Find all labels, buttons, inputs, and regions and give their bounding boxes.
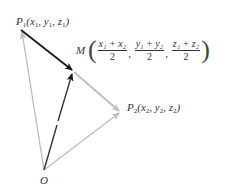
vector-o-p2 [44, 113, 119, 170]
point-m-label: M (x₁ + x₂2, y₁ + y₂2, z₁ + z₂2) [76, 37, 210, 63]
midpoint-z-fraction: z₁ + z₂2 [172, 39, 200, 62]
midpoint-y-fraction: y₁ + y₂2 [135, 39, 165, 62]
point-p1-label: P1(x1, y1, z1) [16, 16, 69, 29]
vector-o-p1 [22, 32, 44, 170]
origin-label: O [40, 175, 48, 186]
vector-m-p2 [74, 72, 119, 111]
midpoint-x-fraction: x₁ + x₂2 [98, 39, 128, 62]
vector-o-m-lower [44, 125, 57, 170]
vector-p1-m [21, 30, 72, 70]
point-p2-label: P2(x2, y2, z2) [127, 102, 180, 115]
vector-o-m-upper [58, 74, 72, 121]
right-paren: ) [201, 35, 210, 64]
left-paren: ( [88, 35, 97, 64]
